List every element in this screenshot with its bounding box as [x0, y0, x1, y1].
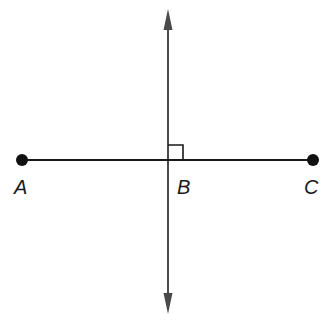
- arrow-up-icon: [164, 9, 173, 30]
- arrow-down-icon: [164, 293, 173, 314]
- right-angle-marker: [168, 145, 183, 160]
- label-c: C: [304, 177, 318, 197]
- label-b: B: [177, 177, 190, 197]
- label-a: A: [14, 177, 27, 197]
- point-a: [16, 154, 28, 166]
- geometry-figure: [0, 0, 335, 325]
- diagram-canvas: A B C: [0, 0, 335, 325]
- point-c: [307, 154, 319, 166]
